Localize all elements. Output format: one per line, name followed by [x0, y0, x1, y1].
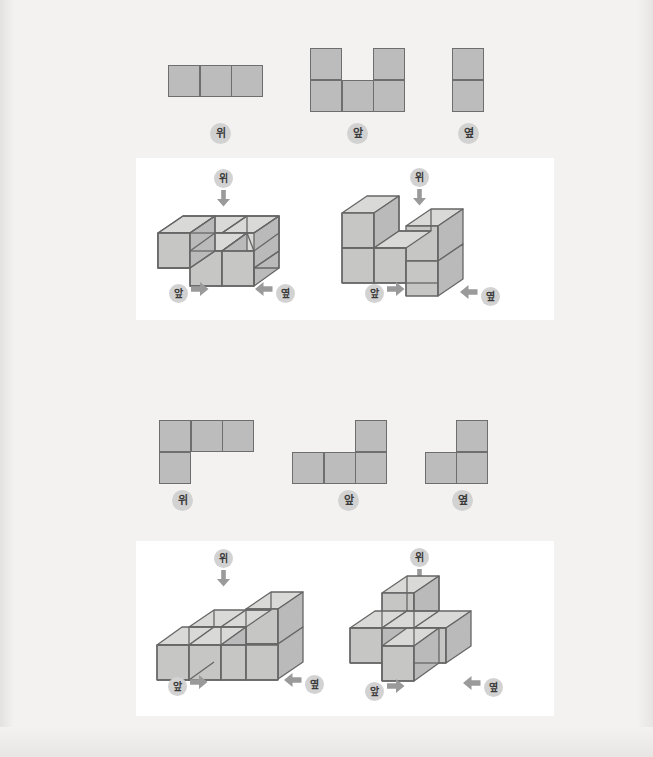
front-view-label: 앞	[347, 123, 368, 144]
grid-cell	[200, 65, 232, 97]
front-direction-label: 앞	[365, 682, 384, 701]
grid-cell	[456, 452, 488, 484]
front-direction-label: 앞	[365, 284, 384, 303]
problem-1-solids-panel: 위	[136, 158, 554, 320]
side-direction-label: 옆	[481, 287, 500, 306]
grid-cell	[355, 452, 387, 484]
grid-cell	[456, 420, 488, 452]
grid-cell	[310, 80, 342, 112]
grid-cell	[159, 452, 191, 484]
arrow-right-icon	[387, 281, 405, 297]
grid-cell	[425, 452, 457, 484]
worksheet-page: 위 앞 옆 위	[0, 0, 653, 757]
page-edge-left	[0, 0, 14, 757]
arrow-right-icon	[191, 281, 209, 297]
arrow-left-icon	[460, 284, 478, 300]
grid-cell	[452, 48, 484, 80]
side-direction-label: 옆	[305, 675, 324, 694]
grid-cell	[373, 80, 405, 112]
front-direction-label: 앞	[169, 284, 188, 303]
side-view-label: 옆	[452, 490, 473, 511]
problem-2-solids-panel: 위	[136, 541, 554, 716]
arrow-left-icon	[255, 281, 273, 297]
grid-cell	[191, 420, 223, 452]
grid-cell	[231, 65, 263, 97]
grid-cell	[355, 420, 387, 452]
arrow-right-icon	[387, 678, 405, 694]
arrow-left-icon	[463, 675, 481, 691]
arrow-right-icon	[190, 674, 208, 690]
grid-cell	[373, 48, 405, 80]
grid-cell	[292, 452, 324, 484]
grid-cell	[310, 48, 342, 80]
grid-cell	[222, 420, 254, 452]
side-view-label: 옆	[458, 123, 479, 144]
grid-cell	[159, 420, 191, 452]
front-view-label: 앞	[338, 490, 359, 511]
page-edge-right	[637, 0, 653, 757]
side-direction-label: 옆	[484, 678, 503, 697]
top-view-label: 위	[172, 490, 193, 511]
side-direction-label: 옆	[276, 284, 295, 303]
page-edge-bottom	[0, 727, 653, 757]
grid-cell	[452, 80, 484, 112]
front-direction-label: 앞	[168, 677, 187, 696]
arrow-left-icon	[284, 672, 302, 688]
grid-cell	[168, 65, 200, 97]
top-view-label: 위	[210, 123, 231, 144]
grid-cell	[342, 80, 374, 112]
grid-cell	[324, 452, 356, 484]
